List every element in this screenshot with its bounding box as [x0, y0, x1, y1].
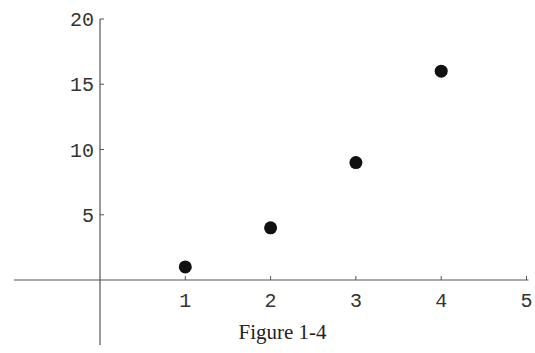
x-tick-label: 4 — [435, 290, 447, 313]
y-tick-label: 10 — [70, 140, 94, 163]
y-tick-label: 5 — [82, 205, 94, 228]
x-tick-label: 2 — [265, 290, 277, 313]
axes: 123455101520 — [14, 9, 533, 345]
data-point — [349, 156, 362, 169]
y-tick-label: 20 — [70, 9, 94, 32]
data-point — [435, 65, 448, 78]
figure-caption: Figure 1-4 — [0, 320, 535, 345]
y-tick-label: 15 — [70, 74, 94, 97]
data-point — [179, 260, 192, 273]
data-points — [179, 65, 448, 274]
scatter-plot: 123455101520 — [0, 0, 535, 353]
x-tick-label: 1 — [179, 290, 191, 313]
x-tick-label: 5 — [520, 290, 532, 313]
data-point — [264, 221, 277, 234]
x-tick-label: 3 — [350, 290, 362, 313]
